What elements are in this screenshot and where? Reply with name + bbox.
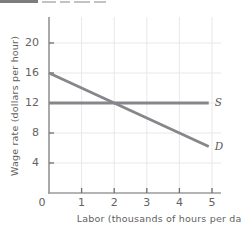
x-tick-label: 4 [171, 196, 187, 209]
series-label-supply: S [215, 96, 222, 108]
labor-market-chart: Wage rate (dollars per hour) Labor (thou… [0, 0, 241, 231]
x-axis-label: Labor (thousands of hours per day) [77, 213, 241, 224]
y-tick-label: 12 [17, 96, 39, 109]
x-tick-label: 5 [204, 196, 220, 209]
x-tick-label: 2 [106, 196, 122, 209]
origin-label: 0 [34, 196, 50, 209]
x-tick-label: 1 [74, 196, 90, 209]
y-tick-label: 4 [17, 156, 39, 169]
series-label-demand: D [215, 140, 223, 152]
curve-demand [49, 73, 209, 147]
x-tick-label: 3 [139, 196, 155, 209]
y-tick-label: 16 [17, 66, 39, 79]
y-tick-label: 20 [17, 36, 39, 49]
y-tick-label: 8 [17, 126, 39, 139]
